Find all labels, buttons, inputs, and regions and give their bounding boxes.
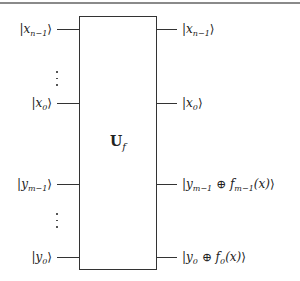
input-label-x-0: |x0⟩ [31, 96, 52, 115]
output-wire-x-n-1 [157, 29, 177, 30]
output-label-y-0-xor-f: |y0 ⊕ f0(x)⟩ [182, 250, 246, 269]
input-wire-x-n-1 [57, 29, 79, 30]
output-label-x-n-1: |xn−1⟩ [182, 22, 214, 41]
gate-subscript: f [122, 141, 126, 152]
output-wire-y-m-1 [157, 184, 177, 185]
input-label-x-n-1: |xn−1⟩ [20, 22, 52, 41]
input-wire-x-0 [57, 103, 79, 104]
input-label-y-0: |y0⟩ [31, 250, 52, 269]
output-wire-y-0 [157, 257, 177, 258]
gate-symbol: U [110, 133, 122, 149]
output-wire-x-0 [157, 103, 177, 104]
input-wire-y-0 [57, 257, 79, 258]
input-label-y-m-1: |ym−1⟩ [17, 177, 52, 196]
output-label-y-m-1-xor-f: |ym−1 ⊕ fm−1(x)⟩ [182, 177, 275, 196]
input-wire-y-m-1 [57, 184, 79, 185]
output-label-x-0: |x0⟩ [182, 96, 203, 115]
oracle-gate-box: Uf [79, 16, 157, 270]
input-ellipsis-x [56, 71, 58, 91]
input-ellipsis-y [56, 213, 58, 233]
top-rule [0, 2, 300, 4]
gate-label: Uf [80, 133, 156, 152]
